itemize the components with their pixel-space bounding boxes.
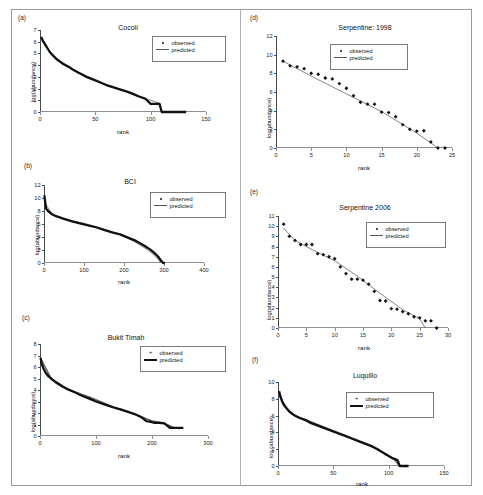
dot-glyph	[160, 198, 162, 200]
observed-marker-serpentine-2006	[282, 222, 286, 226]
line-swatch-icon	[143, 359, 158, 361]
x-tick-label-bci: 400	[199, 267, 208, 273]
x-tick-label-serpentine-1998: 15	[378, 152, 384, 158]
line-swatch-icon	[333, 57, 348, 58]
y-tick-label-bukit-timah: 6	[33, 364, 36, 370]
x-tick-luquillo	[389, 466, 390, 469]
observed-marker-serpentine-1998	[422, 129, 426, 133]
panel-letter-serpentine-2006: (e)	[250, 188, 258, 195]
dot-glyph	[340, 50, 342, 52]
x-tick-label-serpentine-2006: 0	[276, 332, 279, 338]
observed-marker-serpentine-2006	[423, 319, 427, 323]
observed-marker-serpentine-1998	[316, 72, 320, 76]
panel-title-luquillo: Luquillo	[302, 372, 428, 379]
y-tick-label-bci: 8	[37, 208, 40, 214]
x-tick-bci	[84, 263, 85, 266]
y-tick-label-bukit-timah: 5	[33, 376, 36, 382]
y-tick-label-serpentine-2006: 10	[268, 223, 274, 229]
y-tick-label-serpentine-1998: 6	[269, 89, 272, 95]
observed-marker-serpentine-1998	[337, 82, 341, 86]
x-tick-cocoli	[40, 112, 41, 115]
y-axis-label-bukit-timah: log(abundance)	[30, 392, 36, 432]
x-axis-label-serpentine-1998: rank	[358, 164, 370, 171]
dot-marker-icon	[155, 42, 170, 44]
y-tick-label-bci: 10	[34, 195, 40, 201]
x-tick-cocoli	[151, 112, 152, 115]
line-glyph	[334, 57, 347, 58]
legend-label-predicted-bukit-timah: predicted	[158, 357, 183, 363]
line-swatch-icon	[349, 405, 364, 407]
legend-serpentine-2006: observedpredicted	[366, 222, 446, 248]
x-tick-label-serpentine-1998: 20	[414, 152, 420, 158]
x-tick-label-serpentine-2006: 30	[445, 332, 451, 338]
legend-label-predicted-luquillo: predicted	[364, 403, 389, 409]
panel-title-serpentine-2006: Serpentine 2006	[302, 204, 428, 211]
x-tick-label-serpentine-1998: 5	[310, 152, 313, 158]
figure-container: (a)Cocoli01234567050100150log(abundance)…	[0, 0, 483, 495]
x-tick-luquillo	[444, 466, 445, 469]
x-tick-bci	[44, 263, 45, 266]
x-tick-cocoli	[206, 112, 207, 115]
x-tick-label-bukit-timah: 100	[91, 440, 100, 446]
observed-curve-bci	[44, 195, 164, 263]
x-tick-luquillo	[333, 466, 334, 469]
observed-marker-serpentine-1998	[373, 102, 377, 106]
x-tick-serpentine-1998	[276, 148, 277, 151]
x-tick-label-luquillo: 100	[384, 470, 393, 476]
y-tick-label-luquillo: 10	[268, 379, 274, 385]
observed-marker-serpentine-2006	[435, 326, 439, 330]
legend-bukit-timah: +observedpredicted	[140, 346, 226, 372]
observed-marker-serpentine-2006	[310, 243, 314, 247]
observed-marker-serpentine-1998	[359, 100, 363, 104]
panel-letter-serpentine-1998: (d)	[250, 14, 258, 21]
panel-serpentine-1998: (d)Serpentine: 19980246810120510152025lo…	[244, 12, 472, 180]
x-tick-serpentine-2006	[306, 328, 307, 331]
dot-marker-icon	[153, 198, 168, 200]
x-tick-luquillo	[278, 466, 279, 469]
x-tick-serpentine-2006	[448, 328, 449, 331]
panel-letter-luquillo: (f)	[252, 356, 258, 363]
observed-marker-serpentine-1998	[429, 140, 433, 144]
line-glyph	[370, 235, 383, 236]
x-tick-label-serpentine-1998: 25	[449, 152, 455, 158]
legend-row-predicted-serpentine-1998: predicted	[333, 54, 404, 61]
x-tick-label-luquillo: 0	[276, 470, 279, 476]
x-tick-bci	[204, 263, 205, 266]
y-axis-label-serpentine-1998: log(abundance)	[266, 98, 272, 138]
y-axis-label-cocoli: log(abundance)	[30, 62, 36, 102]
legend-serpentine-1998: observedpredicted	[330, 44, 408, 70]
x-tick-serpentine-1998	[382, 148, 383, 151]
observed-marker-serpentine-2006	[350, 277, 354, 281]
x-tick-label-luquillo: 50	[330, 470, 336, 476]
line-swatch-icon	[155, 49, 170, 50]
panel-luquillo: (f)Luquillo0246810050100150log (abundanc…	[244, 352, 472, 486]
line-swatch-icon	[369, 235, 384, 236]
y-tick-label-serpentine-2006: 9	[271, 233, 274, 239]
x-axis-label-serpentine-2006: rank	[358, 344, 370, 351]
panel-serpentine-2006: (e)Serpentine 20060123456789101105101520…	[244, 184, 472, 350]
observed-marker-serpentine-2006	[389, 307, 393, 311]
column-divider	[240, 9, 241, 486]
y-tick-label-serpentine-2006: 7	[271, 254, 274, 260]
legend-row-observed-bci: observed	[153, 195, 222, 202]
predicted-line-cocoli	[41, 36, 162, 112]
y-tick-label-serpentine-2006: 8	[271, 244, 274, 250]
legend-row-observed-serpentine-1998: observed	[333, 47, 404, 54]
x-tick-label-cocoli: 50	[92, 116, 98, 122]
y-axis-label-bci: log(abundance)	[34, 215, 40, 255]
legend-label-observed-bukit-timah: observed	[158, 350, 183, 356]
legend-label-observed-luquillo: observed	[364, 396, 389, 402]
y-tick-label-serpentine-2006: 6	[271, 264, 274, 270]
observed-marker-serpentine-2006	[316, 252, 320, 256]
y-tick-label-cocoli: 5	[33, 50, 36, 56]
y-tick-label-bukit-timah: 7	[33, 353, 36, 359]
y-tick-label-bci: 12	[34, 182, 40, 188]
y-tick-label-cocoli: 7	[33, 27, 36, 33]
x-tick-serpentine-2006	[420, 328, 421, 331]
observed-marker-serpentine-2006	[378, 299, 382, 303]
observed-marker-serpentine-2006	[418, 316, 422, 320]
x-tick-label-cocoli: 0	[38, 116, 41, 122]
x-tick-label-cocoli: 100	[146, 116, 155, 122]
x-tick-label-cocoli: 150	[201, 116, 210, 122]
panel-letter-cocoli: (a)	[18, 14, 26, 21]
